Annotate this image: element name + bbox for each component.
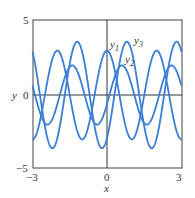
label-y1: y1 — [109, 38, 119, 53]
y-label: y — [11, 89, 17, 101]
xtick-3: 3 — [176, 171, 182, 183]
chart: 5 0 −5 y −3 0 3 x y1 y3 y2 — [0, 0, 195, 198]
ytick-5: 5 — [23, 14, 29, 26]
x-label: x — [103, 182, 109, 194]
ytick-0: 0 — [23, 89, 29, 101]
xtick-neg3: −3 — [26, 171, 38, 183]
label-y3: y3 — [133, 34, 143, 49]
